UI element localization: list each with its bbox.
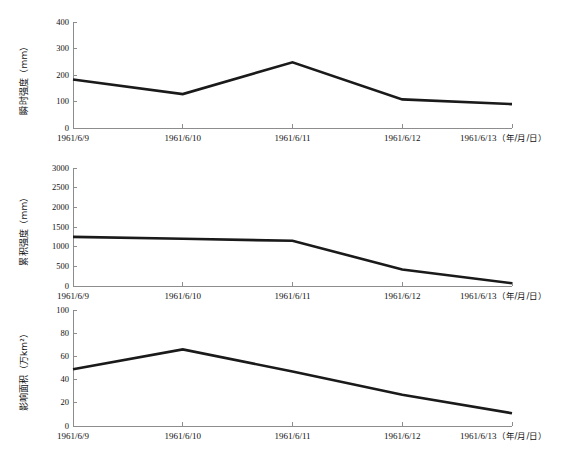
x-axis-tick-label: 1961/6/12 (384, 134, 421, 143)
x-axis-unit-label: （年/月/日） (497, 133, 548, 143)
chart-panel-instantaneous-intensity: 瞬时强度（mm） 0100200300400 1961/6/91961/6/10… (0, 0, 563, 150)
x-axis-tick-label: 1961/6/13（年/月/日） (460, 134, 547, 143)
x-axis-date-text: 1961/6/13 (460, 133, 497, 143)
x-axis-date-text: 1961/6/13 (460, 431, 497, 441)
x-axis-tick-label: 1961/6/13（年/月/日） (460, 432, 547, 441)
x-axis-tick-label: 1961/6/11 (274, 134, 310, 143)
data-series-line (73, 237, 512, 283)
chart-svg (0, 300, 563, 449)
data-series-line (73, 62, 512, 104)
figure-three-panel-timeseries: 瞬时强度（mm） 0100200300400 1961/6/91961/6/10… (0, 0, 563, 449)
x-axis-unit-label: （年/月/日） (497, 431, 548, 441)
x-axis-tick-label: 1961/6/10 (164, 134, 201, 143)
x-axis-tick-label: 1961/6/9 (57, 134, 89, 143)
x-axis-tick-label: 1961/6/10 (164, 432, 201, 441)
x-axis-tick-label: 1961/6/12 (384, 432, 421, 441)
chart-panel-cumulative-intensity: 累积强度（mm） 050010001500200025003000 1961/6… (0, 150, 563, 300)
axis-lines (73, 310, 512, 426)
chart-panel-affected-area: 影响面积（万km²） 020406080100 1961/6/91961/6/1… (0, 300, 563, 449)
x-axis-tick-label: 1961/6/11 (274, 432, 310, 441)
plot-area-panel-3 (0, 300, 563, 449)
chart-svg (0, 150, 563, 310)
x-axis-tick-label: 1961/6/9 (57, 432, 89, 441)
axis-lines (73, 22, 512, 128)
chart-svg (0, 0, 563, 152)
axis-lines (73, 168, 512, 286)
data-series-line (73, 349, 512, 413)
